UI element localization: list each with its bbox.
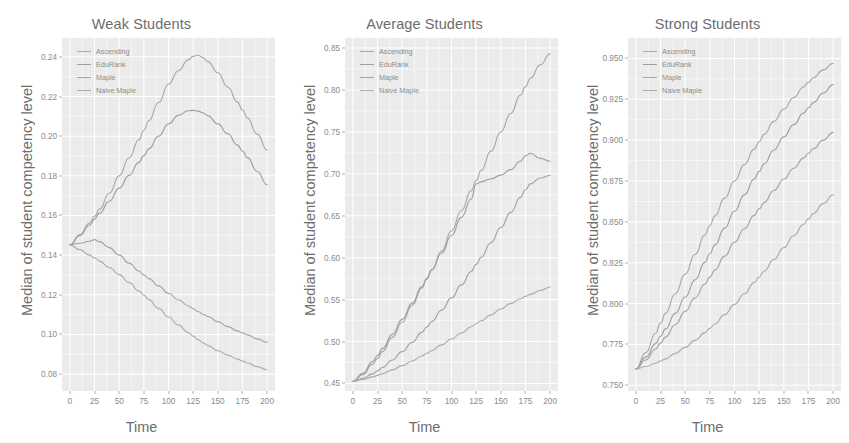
legend: AscendingEduRankMapleNaive Maple <box>359 46 419 96</box>
legend-label: EduRank <box>379 60 409 69</box>
x-tick-label: 200 <box>543 397 557 406</box>
x-tick-mark <box>525 391 526 394</box>
legend-line-icon <box>76 59 92 70</box>
x-tick-label: 50 <box>681 397 690 406</box>
y-axis-label: Median of student competency level <box>14 0 40 400</box>
legend-label: Maple <box>379 73 399 82</box>
legend-item: Ascending <box>359 46 419 57</box>
legend-label: Ascending <box>96 47 130 56</box>
y-tick-label: 0.16 <box>41 211 57 220</box>
y-tick-label: 0.80 <box>324 85 340 94</box>
x-tick-label: 50 <box>115 397 124 406</box>
x-tick-mark <box>734 391 735 394</box>
legend: AscendingEduRankMapleNaive Maple <box>642 46 702 96</box>
y-tick-label: 0.12 <box>41 290 57 299</box>
x-tick-label: 100 <box>728 397 742 406</box>
plot-area: AscendingEduRankMapleNaive Maple <box>345 38 558 391</box>
plot-wrapper: AscendingEduRankMapleNaive Maple 0.7500.… <box>628 38 841 391</box>
x-axis-label: Time <box>0 419 283 435</box>
x-tick-label: 125 <box>469 397 483 406</box>
panel-average-students: Average Students Median of student compe… <box>283 0 566 443</box>
x-tick-mark <box>352 391 353 394</box>
legend-line-icon <box>359 85 375 96</box>
legend-item: Maple <box>76 72 136 83</box>
legend-line-icon <box>359 72 375 83</box>
legend-label: Ascending <box>662 47 696 56</box>
legend: AscendingEduRankMapleNaive Maple <box>76 46 136 96</box>
x-tick-mark <box>267 391 268 394</box>
legend-line-icon <box>642 72 658 83</box>
legend-item: Naive Maple <box>642 85 702 96</box>
panel-weak-students: Weak Students Median of student competen… <box>0 0 283 443</box>
legend-item: EduRank <box>359 59 419 70</box>
x-tick-label: 200 <box>826 397 840 406</box>
x-tick-mark <box>500 391 501 394</box>
x-tick-mark <box>119 391 120 394</box>
legend-item: Maple <box>642 72 702 83</box>
y-tick-label: 0.50 <box>324 337 340 346</box>
legend-item: Naive Maple <box>359 85 419 96</box>
legend-label: Naive Maple <box>379 86 419 95</box>
x-tick-mark <box>685 391 686 394</box>
legend-item: EduRank <box>642 59 702 70</box>
y-tick-label: 0.55 <box>324 295 340 304</box>
x-tick-mark <box>451 391 452 394</box>
legend-label: Maple <box>96 73 116 82</box>
multi-panel-line-chart: Weak Students Median of student competen… <box>0 0 849 443</box>
x-tick-label: 50 <box>398 397 407 406</box>
y-tick-label: 0.14 <box>41 251 57 260</box>
x-axis-label: Time <box>283 419 566 435</box>
legend-item: Ascending <box>76 46 136 57</box>
x-tick-label: 100 <box>445 397 459 406</box>
y-axis-label: Median of student competency level <box>580 0 606 400</box>
x-tick-label: 0 <box>634 397 639 406</box>
panel-strong-students: Strong Students Median of student compet… <box>566 0 849 443</box>
x-tick-mark <box>168 391 169 394</box>
x-tick-mark <box>783 391 784 394</box>
plot-area: AscendingEduRankMapleNaive Maple <box>628 38 841 391</box>
y-tick-label: 0.22 <box>41 92 57 101</box>
x-tick-mark <box>377 391 378 394</box>
x-tick-label: 25 <box>656 397 665 406</box>
y-tick-label: 0.70 <box>324 169 340 178</box>
y-tick-label: 0.45 <box>324 379 340 388</box>
x-tick-label: 125 <box>752 397 766 406</box>
x-tick-mark <box>69 391 70 394</box>
y-tick-label: 0.75 <box>324 127 340 136</box>
y-axis-label: Median of student competency level <box>297 0 323 400</box>
x-tick-mark <box>660 391 661 394</box>
legend-line-icon <box>359 46 375 57</box>
legend-line-icon <box>359 59 375 70</box>
x-tick-mark <box>143 391 144 394</box>
y-tick-label: 0.10 <box>41 330 57 339</box>
x-tick-mark <box>476 391 477 394</box>
x-tick-label: 150 <box>777 397 791 406</box>
legend-line-icon <box>76 46 92 57</box>
legend-line-icon <box>642 59 658 70</box>
x-tick-mark <box>242 391 243 394</box>
x-tick-mark <box>709 391 710 394</box>
x-tick-label: 75 <box>422 397 431 406</box>
x-tick-label: 25 <box>373 397 382 406</box>
x-tick-mark <box>759 391 760 394</box>
panel-title: Weak Students <box>0 16 283 32</box>
x-tick-label: 125 <box>186 397 200 406</box>
x-tick-label: 75 <box>705 397 714 406</box>
legend-line-icon <box>76 85 92 96</box>
x-tick-label: 100 <box>162 397 176 406</box>
x-tick-label: 75 <box>139 397 148 406</box>
y-tick-label: 0.08 <box>41 370 57 379</box>
x-tick-mark <box>550 391 551 394</box>
y-tick-label: 0.60 <box>324 253 340 262</box>
legend-line-icon <box>642 46 658 57</box>
x-tick-label: 200 <box>260 397 274 406</box>
x-tick-label: 175 <box>236 397 250 406</box>
legend-line-icon <box>76 72 92 83</box>
y-tick-label: 0.20 <box>41 132 57 141</box>
x-tick-mark <box>402 391 403 394</box>
x-tick-mark <box>808 391 809 394</box>
panel-title: Average Students <box>283 16 566 32</box>
x-tick-mark <box>833 391 834 394</box>
x-axis-label: Time <box>566 419 849 435</box>
legend-label: EduRank <box>662 60 692 69</box>
